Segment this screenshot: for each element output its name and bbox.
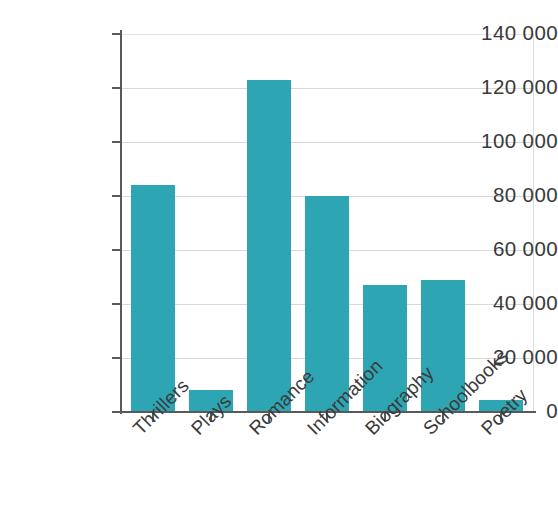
y-axis-tick-label: 80 000: [452, 185, 558, 206]
y-axis-tick: [112, 357, 121, 359]
y-axis-tick: [112, 249, 121, 251]
y-axis-tick: [112, 33, 121, 35]
y-axis-tick: [112, 195, 121, 197]
bar-chart: 020 00040 00060 00080 000100 000120 0001…: [0, 0, 558, 532]
y-axis-tick: [112, 141, 121, 143]
y-axis-tick: [112, 87, 121, 89]
y-axis-tick: [112, 411, 121, 413]
y-axis-tick-label: 100 000: [452, 131, 558, 152]
bar: [247, 80, 291, 412]
y-axis-tick-label: 60 000: [452, 239, 558, 260]
y-axis-tick-label: 120 000: [452, 77, 558, 98]
y-axis-tick: [112, 303, 121, 305]
y-axis-tick-label: 140 000: [452, 23, 558, 44]
bar: [131, 185, 175, 412]
y-axis-tick-label: 40 000: [452, 293, 558, 314]
